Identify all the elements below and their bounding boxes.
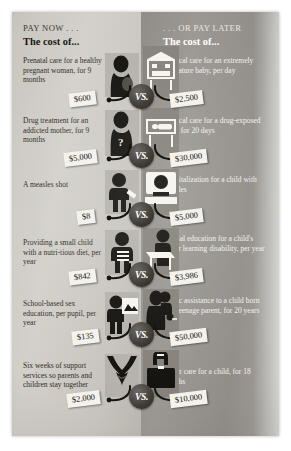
row-left-description: A measles shot (23, 180, 103, 190)
row-left-description: Six weeks of support services so parents… (23, 361, 103, 390)
vs-badge: VS. (129, 202, 154, 227)
row-left-description: Prenatal care for a healthy pregnant wom… (23, 56, 103, 85)
vs-badge: VS. (129, 384, 154, 409)
row-left-description: Providing a small child with a nutri-tio… (23, 238, 103, 267)
price-tag-left: $8 (76, 209, 96, 225)
subhead-cost-of-left: The cost of... (23, 36, 79, 47)
vs-badge: VS. (129, 322, 154, 347)
vs-badge: VS. (129, 143, 154, 168)
row-left-description: School-based sex education, per pupil, p… (23, 299, 103, 328)
vs-badge: VS. (129, 84, 154, 109)
infographic-poster: PAY NOW . . . . . . OR PAY LATER The cos… (12, 12, 279, 436)
vs-badge: VS. (129, 262, 154, 287)
svg-text:?: ? (118, 136, 124, 148)
header-pay-now: PAY NOW . . . (23, 23, 79, 33)
header-pay-later: . . . OR PAY LATER (163, 23, 241, 33)
row-left-description: Drug treatment for an addicted mother, f… (23, 116, 103, 145)
